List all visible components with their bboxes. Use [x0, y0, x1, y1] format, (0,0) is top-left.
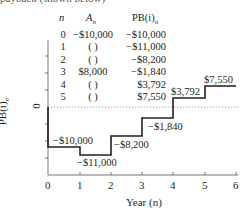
x-tick-6: 6	[233, 179, 239, 191]
x-tick-2: 2	[108, 179, 114, 191]
step-label-5: $7,550	[204, 74, 233, 85]
x-ticks	[80, 172, 236, 175]
step-label-1: −$11,000	[77, 157, 117, 168]
x-axis-label: Year (n)	[126, 196, 162, 208]
step-label-0: −$10,000	[53, 135, 93, 146]
x-tick-3: 3	[139, 179, 145, 191]
step-label-2: −$8,200	[114, 139, 149, 150]
x-tick-5: 5	[202, 179, 208, 191]
step-label-4: $3,792	[171, 86, 200, 97]
step-label-3: −$1,840	[148, 121, 183, 132]
y-zero-label: 0	[30, 103, 42, 109]
x-tick-4: 4	[170, 179, 176, 191]
y-axis-label: PB(i)n	[0, 98, 11, 125]
x-tick-1: 1	[77, 179, 83, 191]
step-chart	[0, 0, 251, 224]
x-tick-0: 0	[45, 179, 51, 191]
